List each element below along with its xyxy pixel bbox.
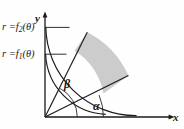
figure-canvas (0, 0, 184, 129)
curve-label-f1-prefix: r = (2, 48, 16, 59)
curve-label-f2-arg: (θ) (22, 21, 34, 32)
polar-region-figure: y x r =f2(θ) r =f1(θ) β α (0, 0, 184, 129)
curve-label-f1: r =f1(θ) (2, 48, 35, 61)
x-axis-label: x (173, 111, 179, 123)
y-axis-arrowhead (43, 12, 48, 18)
angle-label-alpha: α (93, 99, 100, 114)
angle-label-beta: β (64, 77, 70, 92)
ray-theta-beta (45, 32, 87, 117)
curve-label-f2: r =f2(θ) (2, 21, 35, 34)
curve-label-f2-prefix: r = (2, 21, 16, 32)
y-axis-label: y (35, 12, 40, 24)
curve-label-f1-arg: (θ) (22, 48, 34, 59)
